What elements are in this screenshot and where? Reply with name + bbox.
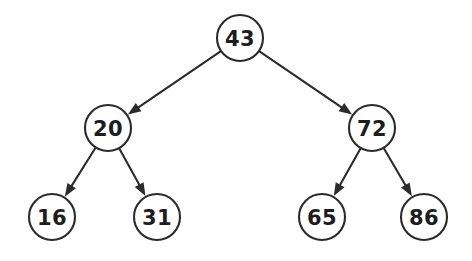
tree-edge [384,149,412,197]
tree-edge [334,149,360,196]
nodes-layer: 43207216316586 [29,15,447,240]
node-label: 65 [307,206,337,230]
node-label: 31 [142,206,172,230]
arrowhead-icon [334,182,345,196]
arrowhead-icon [339,103,353,114]
node-label: 72 [357,117,387,141]
edge-line [384,149,406,187]
arrowhead-icon [128,103,142,114]
edge-line [260,52,343,109]
node-label: 16 [37,206,67,230]
tree-node[interactable]: 43 [217,15,263,61]
edge-line [71,148,96,187]
tree-node[interactable]: 86 [401,194,447,240]
arrowhead-icon [135,182,146,196]
tree-node[interactable]: 65 [299,194,345,240]
tree-node[interactable]: 72 [349,105,395,151]
binary-tree-diagram: 43207216316586 [0,0,472,261]
tree-edge [65,148,95,196]
tree-edge [128,52,220,115]
tree-node[interactable]: 16 [29,194,75,240]
node-label: 43 [225,27,255,51]
node-label: 86 [409,206,439,230]
tree-node[interactable]: 20 [85,105,131,151]
arrowhead-icon [401,183,412,197]
tree-edge [260,52,352,115]
node-label: 20 [93,117,123,141]
edge-line [137,52,220,109]
arrowhead-icon [65,183,76,197]
tree-node[interactable]: 31 [134,194,180,240]
edge-line [339,149,360,187]
tree-edge [120,149,146,196]
tree-diagram-canvas: 43207216316586 [0,0,472,261]
edge-line [120,149,141,186]
